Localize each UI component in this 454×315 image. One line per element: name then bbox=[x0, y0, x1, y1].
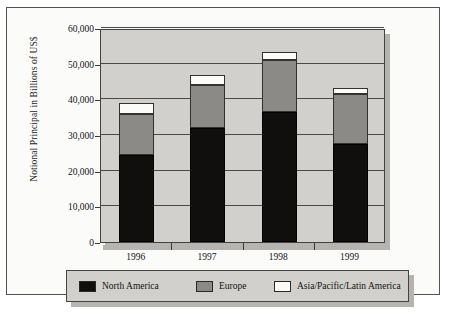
gray-swatch bbox=[196, 281, 213, 292]
bar-segment-asia-pacific-latin-america-1999 bbox=[333, 88, 368, 94]
legend-item-0: North America bbox=[79, 281, 159, 292]
x-axis-tick-label-1999: 1999 bbox=[319, 252, 379, 262]
plot-area bbox=[100, 29, 385, 243]
bar-segment-europe-1996 bbox=[119, 114, 154, 155]
x-axis-tick-mark bbox=[314, 243, 315, 250]
y-axis-tick-label: 50,000 bbox=[34, 60, 94, 70]
bar-group-1998 bbox=[262, 28, 297, 242]
bar-segment-europe-1997 bbox=[190, 85, 225, 128]
bar-segment-north-america-1997 bbox=[190, 128, 225, 242]
y-axis-tick-mark bbox=[95, 136, 100, 137]
bar-group-1999 bbox=[333, 28, 368, 242]
black-swatch bbox=[79, 281, 96, 292]
chart-legend: North AmericaEuropeAsia/Pacific/Latin Am… bbox=[66, 270, 409, 302]
legend-item-1: Europe bbox=[196, 281, 246, 292]
y-axis-tick-mark bbox=[95, 172, 100, 173]
y-axis-tick-mark bbox=[95, 65, 100, 66]
chart-figure: Notional Principal in Billions of US$ 01… bbox=[0, 0, 454, 315]
bar-segment-europe-1998 bbox=[262, 60, 297, 112]
x-axis-tick-label-1998: 1998 bbox=[248, 252, 308, 262]
legend-item-2: Asia/Pacific/Latin America bbox=[274, 281, 401, 292]
y-axis-tick-label: 0 bbox=[34, 238, 94, 248]
white-swatch bbox=[274, 281, 291, 292]
y-axis-tick-label: 60,000 bbox=[34, 24, 94, 34]
bar-segment-asia-pacific-latin-america-1998 bbox=[262, 52, 297, 60]
y-axis-tick-mark bbox=[95, 100, 100, 101]
x-axis-shadow bbox=[103, 245, 390, 250]
bar-group-1996 bbox=[119, 28, 154, 242]
bar-segment-north-america-1996 bbox=[119, 155, 154, 242]
x-axis-tick-label-1997: 1997 bbox=[177, 252, 237, 262]
bar-segment-north-america-1999 bbox=[333, 144, 368, 242]
bar-segment-north-america-1998 bbox=[262, 112, 297, 242]
y-axis-tick-label: 30,000 bbox=[34, 131, 94, 141]
y-axis-tick-mark bbox=[95, 207, 100, 208]
y-axis-tick-label: 40,000 bbox=[34, 95, 94, 105]
bar-segment-asia-pacific-latin-america-1997 bbox=[190, 75, 225, 85]
x-axis-tick-mark bbox=[171, 243, 172, 250]
legend-label: Asia/Pacific/Latin America bbox=[297, 281, 401, 291]
y-axis-tick-label: 10,000 bbox=[34, 202, 94, 212]
legend-label: North America bbox=[102, 281, 159, 291]
bar-group-1997 bbox=[190, 28, 225, 242]
bar-segment-europe-1999 bbox=[333, 94, 368, 144]
x-axis-tick-mark bbox=[243, 243, 244, 250]
x-axis-tick-label-1996: 1996 bbox=[106, 252, 166, 262]
y-axis-tick-mark bbox=[95, 243, 100, 244]
y-axis-tick-label: 20,000 bbox=[34, 167, 94, 177]
y-axis-tick-mark bbox=[95, 29, 100, 30]
bar-segment-asia-pacific-latin-america-1996 bbox=[119, 103, 154, 114]
legend-label: Europe bbox=[219, 281, 246, 291]
